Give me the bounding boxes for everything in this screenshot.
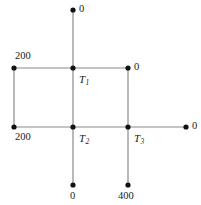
node-right-far xyxy=(183,124,188,129)
node-label-t3-subscript: 3 xyxy=(140,137,144,146)
value-label-left-lower: 200 xyxy=(15,132,31,143)
value-label-right-far: 0 xyxy=(192,121,197,132)
node-left-lower xyxy=(11,124,16,129)
value-label-right-upper: 0 xyxy=(134,62,139,73)
nodes-group xyxy=(11,7,188,187)
edges-group xyxy=(14,10,186,185)
node-left-upper xyxy=(11,65,16,70)
node-label-t2-subscript: 2 xyxy=(85,137,89,146)
node-label-t2: T2 xyxy=(79,133,89,146)
value-label-left-upper: 200 xyxy=(15,51,31,62)
node-bottom-center xyxy=(70,182,75,187)
node-t3 xyxy=(125,124,130,129)
value-label-bottom-right: 400 xyxy=(118,191,134,202)
node-bottom-right xyxy=(125,182,130,187)
node-t1 xyxy=(70,65,75,70)
node-right-upper xyxy=(125,65,130,70)
grid-diagram-canvas: 0 200 0 200 0 0 400 T1 T2 T3 xyxy=(0,0,201,205)
node-t2 xyxy=(70,124,75,129)
node-label-t1: T1 xyxy=(79,74,89,87)
node-top-center xyxy=(70,7,75,12)
value-label-bottom-center: 0 xyxy=(70,191,75,202)
node-label-t1-subscript: 1 xyxy=(85,78,89,87)
node-label-t3: T3 xyxy=(134,133,144,146)
grid-stencil-svg xyxy=(0,0,201,205)
value-label-top-center: 0 xyxy=(79,4,84,15)
